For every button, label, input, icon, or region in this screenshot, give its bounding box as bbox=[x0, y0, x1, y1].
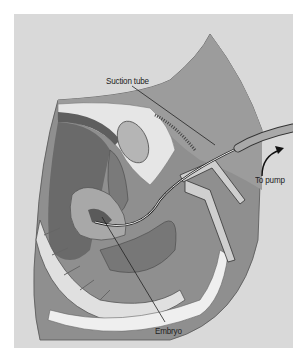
pump-arrow bbox=[262, 150, 280, 176]
pump-arrowhead bbox=[275, 146, 284, 154]
illustration-frame bbox=[14, 14, 293, 348]
anatomy-illustration bbox=[14, 14, 293, 348]
label-to-pump: To pump bbox=[255, 174, 285, 185]
label-suction-tube: Suction tube bbox=[106, 75, 149, 86]
label-embryo: Embryo bbox=[155, 325, 182, 336]
